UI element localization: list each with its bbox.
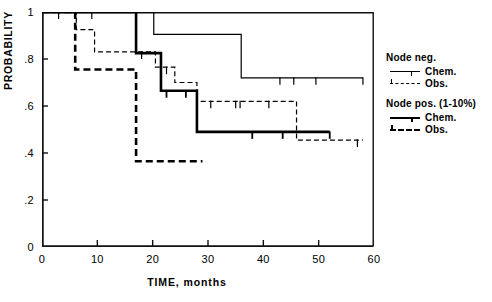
legend-line-swatch [390,66,420,77]
legend-item-label: Obs. [425,124,448,135]
y-tick-label: 0 [8,241,34,253]
x-tick-label: 50 [306,253,332,265]
legend-line-swatch [390,78,420,89]
x-axis-title: TIME, months [0,276,374,288]
series-line [42,12,363,78]
legend-item[interactable]: Chem. [390,111,490,123]
y-tick-label: .8 [8,53,34,65]
chart-legend: Node neg.Chem.Obs.Node pos. (1-10%)Chem.… [386,52,490,144]
legend-line-swatch [390,124,420,135]
series-1 [42,12,363,147]
legend-line-swatch [390,112,420,123]
series-2 [42,12,330,139]
legend-group-heading: Node pos. (1-10%) [386,98,490,109]
chart-figure: PROBABILITY 0.2.4.6.81 0102030405060 TIM… [0,0,492,302]
y-tick-label: .2 [8,194,34,206]
legend-item[interactable]: Chem. [390,65,490,77]
x-tick-label: 30 [195,253,221,265]
legend-item-label: Obs. [425,78,448,89]
y-tick-label: 1 [8,6,34,18]
x-tick-label: 10 [84,253,110,265]
plot-border [43,13,373,246]
plot-axes [43,12,373,246]
axis-frame [42,12,374,247]
x-tick-label: 60 [361,253,387,265]
legend-item[interactable]: Obs. [390,77,490,89]
series-0 [42,12,363,85]
legend-item-label: Chem. [425,66,457,77]
series-layer [42,12,363,161]
legend-group-heading: Node neg. [386,52,490,63]
y-tick-label: .6 [8,100,34,112]
plot-area [42,12,374,247]
series-line [42,12,363,140]
y-tick-label: .4 [8,147,34,159]
legend-item-label: Chem. [425,112,457,123]
legend-group: Node neg.Chem.Obs. [386,52,490,89]
legend-item[interactable]: Obs. [390,123,490,135]
x-axis-ticks [42,240,374,246]
legend-group: Node pos. (1-10%)Chem.Obs. [386,98,490,135]
x-tick-label: 0 [29,253,55,265]
x-tick-label: 20 [140,253,166,265]
x-tick-label: 40 [250,253,276,265]
